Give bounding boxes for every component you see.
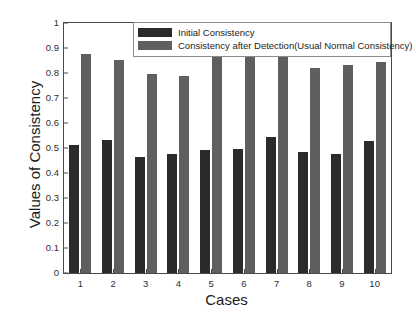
bar [331,154,341,273]
bar [266,137,276,273]
y-axis-tick-label: 0.7 [46,93,59,103]
y-axis-tick-label: 0.6 [46,118,59,128]
plot-area: 00.10.20.30.40.50.60.70.80.9112345678910 [63,22,392,274]
y-axis-tick-mark [64,273,68,274]
y-axis-tick-mark [64,23,68,24]
bar [376,62,386,273]
x-axis-title: Cases [63,292,390,307]
y-axis-tick-mark [64,223,68,224]
bar [298,152,308,274]
y-axis-tick-label: 1 [54,18,59,28]
bar [200,150,210,274]
y-axis-tick-mark [64,198,68,199]
x-axis-tick-label: 3 [143,279,148,289]
y-axis-tick-mark [64,248,68,249]
x-axis-tick-label: 1 [78,279,83,289]
bar [179,76,189,273]
x-axis-tick-label: 5 [208,279,213,289]
bar [167,154,177,273]
x-axis-tick-label: 6 [241,279,246,289]
y-axis-tick-mark [64,48,68,49]
legend-item: Initial Consistency [138,26,386,39]
x-axis-tick-label: 9 [339,279,344,289]
y-axis-tick-label: 0.3 [46,193,59,203]
y-axis-tick-label: 0.5 [46,143,59,153]
bar [343,65,353,274]
y-axis-tick-mark [64,173,68,174]
bar [245,56,255,274]
y-axis-tick-mark [64,98,68,99]
chart-legend: Initial Consistency Consistency after De… [133,22,391,57]
y-axis-tick-mark [64,148,68,149]
y-axis-tick-label: 0.9 [46,43,59,53]
legend-item: Consistency after Detection(Usual Normal… [138,39,386,52]
legend-swatch-initial-consistency [138,28,172,37]
x-axis-tick-label: 7 [274,279,279,289]
bar [81,54,91,274]
x-axis-tick-label: 8 [307,279,312,289]
bar [114,60,124,273]
bar [212,54,222,273]
y-axis-tick-label: 0.2 [46,218,59,228]
bar [102,140,112,273]
y-axis-tick-label: 0 [54,268,59,278]
bar [135,157,145,273]
bar [364,141,374,273]
bar [69,145,79,273]
bar [233,149,243,274]
x-axis-tick-label: 4 [176,279,181,289]
y-axis-tick-mark [64,73,68,74]
bar-chart-figure: 00.10.20.30.40.50.60.70.80.9112345678910… [0,0,416,321]
x-axis-tick-label: 10 [369,279,380,289]
y-axis-tick-label: 0.8 [46,68,59,78]
legend-label-initial-consistency: Initial Consistency [178,28,255,38]
bar [310,68,320,273]
legend-label-consistency-after-detection: Consistency after Detection(Usual Normal… [178,41,412,51]
y-axis-title: Values of Consistency [27,65,42,245]
y-axis-tick-mark [64,123,68,124]
legend-swatch-consistency-after-detection [138,41,172,50]
bar [278,53,288,273]
y-axis-tick-label: 0.4 [46,168,59,178]
bar [147,74,157,273]
y-axis-tick-label: 0.1 [46,243,59,253]
x-axis-tick-label: 2 [110,279,115,289]
